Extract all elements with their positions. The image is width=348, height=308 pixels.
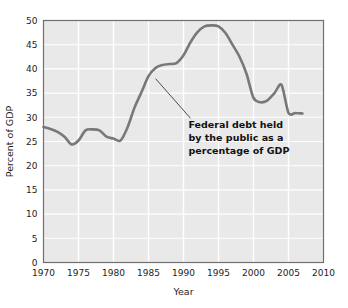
y-tick-0: 0 — [32, 258, 38, 268]
debt-to-gdp-line-chart: 05101520253035404550 1970197519801985199… — [0, 0, 348, 308]
x-tick-1975: 1975 — [67, 268, 90, 278]
x-tick-1995: 1995 — [207, 268, 230, 278]
chart-figure: 05101520253035404550 1970197519801985199… — [0, 0, 348, 308]
y-tick-45: 45 — [26, 40, 37, 50]
y-tick-35: 35 — [26, 88, 37, 98]
y-tick-25: 25 — [26, 137, 37, 147]
x-tick-1985: 1985 — [137, 268, 160, 278]
x-axis-tick-labels: 197019751980198519901995200020052010 — [32, 268, 335, 278]
x-axis-title: Year — [172, 286, 193, 297]
y-tick-10: 10 — [26, 209, 38, 219]
annotation-line-2: percentage of GDP — [189, 145, 290, 156]
y-axis-title: Percent of GDP — [4, 106, 15, 178]
y-tick-5: 5 — [32, 234, 38, 244]
x-tick-1980: 1980 — [102, 268, 125, 278]
y-tick-20: 20 — [26, 161, 38, 171]
annotation-text-block: Federal debt heldby the public as aperce… — [189, 119, 290, 156]
y-tick-30: 30 — [26, 113, 38, 123]
y-tick-40: 40 — [26, 64, 38, 74]
annotation-line-1: by the public as a — [189, 132, 284, 143]
y-tick-50: 50 — [26, 16, 38, 26]
x-tick-1970: 1970 — [32, 268, 55, 278]
x-tick-2010: 2010 — [312, 268, 335, 278]
x-tick-2005: 2005 — [277, 268, 300, 278]
y-tick-15: 15 — [26, 185, 37, 195]
x-tick-1990: 1990 — [172, 268, 195, 278]
x-tick-2000: 2000 — [242, 268, 265, 278]
y-axis-tick-labels: 05101520253035404550 — [26, 16, 38, 268]
annotation-line-0: Federal debt held — [189, 119, 284, 130]
